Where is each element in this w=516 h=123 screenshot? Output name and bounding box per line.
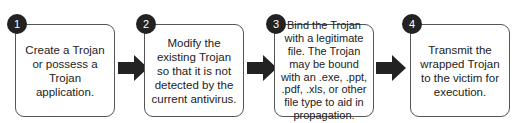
step-1-box: Create a Trojan or possess a Trojan appl… bbox=[15, 24, 115, 117]
arrow-right-icon bbox=[247, 55, 277, 81]
step-3-text: Bind the Trojan with a legitimate file. … bbox=[279, 19, 369, 121]
step-2-badge: 2 bbox=[136, 14, 156, 34]
step-4-badge: 4 bbox=[402, 14, 422, 34]
step-2-text: Modify the existing Trojan so that it is… bbox=[151, 36, 237, 106]
step-1-text: Create a Trojan or possess a Trojan appl… bbox=[22, 43, 108, 99]
step-4-text: Transmit the wrapped Trojan to the victi… bbox=[417, 43, 503, 99]
step-2-box: Modify the existing Trojan so that it is… bbox=[144, 24, 244, 117]
step-1-badge: 1 bbox=[7, 14, 27, 34]
arrow-right-icon bbox=[376, 55, 406, 81]
step-4-box: Transmit the wrapped Trojan to the victi… bbox=[410, 24, 510, 117]
step-3-badge: 3 bbox=[266, 14, 286, 34]
step-3-box: Bind the Trojan with a legitimate file. … bbox=[274, 24, 374, 117]
